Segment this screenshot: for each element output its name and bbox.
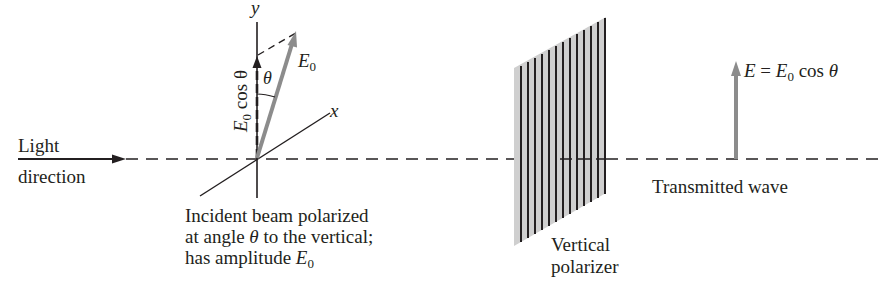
- transmitted-vector: [731, 61, 741, 159]
- cos-text: cos: [794, 60, 829, 81]
- equals-sign: =: [756, 60, 776, 81]
- vertical-component-label: E0 cos θ: [230, 70, 251, 132]
- polarizer-line-1: Vertical: [551, 234, 610, 255]
- vertical-polarizer: [514, 17, 606, 246]
- transmitted-theta: θ: [829, 60, 838, 81]
- transmitted-equation: E = E0 cos θ: [744, 60, 838, 81]
- component-cos-theta: cos θ: [230, 70, 251, 114]
- incident-text: has amplitude: [185, 247, 296, 268]
- incident-text: to the vertical;: [259, 226, 373, 247]
- transmitted-e-symbol: E: [744, 60, 756, 81]
- component-subscript: 0: [239, 114, 254, 121]
- incident-line-1: Incident beam polarized: [185, 205, 369, 226]
- x-axis-label: x: [330, 100, 338, 121]
- polarization-diagram: [0, 0, 882, 299]
- incident-text: at angle: [185, 226, 249, 247]
- transmitted-wave-label: Transmitted wave: [652, 176, 788, 197]
- polarizer-line-2: polarizer: [551, 256, 619, 277]
- direction-label: direction: [18, 166, 86, 187]
- incident-line-3: has amplitude E0: [185, 247, 314, 268]
- e0-vector-label: E0: [298, 50, 316, 71]
- theta-arc: [257, 94, 275, 97]
- coordinate-axes: [200, 22, 330, 198]
- e0-subscript: 0: [310, 59, 317, 74]
- transmitted-e0-symbol: E: [776, 60, 788, 81]
- incident-theta: θ: [249, 226, 258, 247]
- component-e-symbol: E: [230, 120, 251, 132]
- light-label: Light: [18, 135, 59, 156]
- theta-label: θ: [263, 68, 272, 89]
- incident-subscript: 0: [307, 256, 314, 271]
- y-axis-label: y: [251, 0, 259, 18]
- incident-e-symbol: E: [296, 247, 308, 268]
- e0-symbol: E: [298, 50, 310, 71]
- incident-line-2: at angle θ to the vertical;: [185, 226, 373, 247]
